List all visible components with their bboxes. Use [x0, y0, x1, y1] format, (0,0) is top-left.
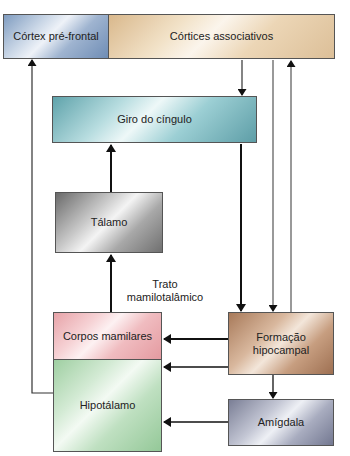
node-label: Corpos mamilares	[63, 330, 152, 343]
node-giro-do-cingulo: Giro do cíngulo	[52, 96, 257, 143]
node-formacao-hipocampal: Formação hipocampal	[228, 312, 334, 375]
node-label: Córtices associativos	[170, 30, 273, 43]
node-label: Giro do cíngulo	[117, 113, 192, 126]
node-cortices-associativos: Córtices associativos	[108, 14, 335, 59]
node-label: Hipotálamo	[80, 399, 136, 412]
node-label: Amígdala	[258, 416, 304, 429]
edge-label-line1: Trato	[120, 278, 210, 291]
node-talamo: Tálamo	[55, 192, 163, 253]
edge-label-line2: mamilotalâmico	[120, 291, 210, 304]
node-amigdala: Amígdala	[228, 399, 334, 446]
node-hipotalamo: Hipotálamo	[53, 359, 162, 452]
node-label-line1: Formação	[256, 331, 306, 344]
edge-label-trato-mamilotalamico: Trato mamilotalâmico	[120, 278, 210, 304]
node-label: Córtex pré-frontal	[13, 30, 99, 43]
node-label-line2: hipocampal	[253, 344, 309, 357]
node-cortex-prefrontal: Córtex pré-frontal	[3, 14, 109, 59]
node-label: Tálamo	[91, 216, 128, 229]
node-corpos-mamilares: Corpos mamilares	[53, 312, 162, 360]
edge-hipotalamo-to-prefrontal	[32, 60, 53, 393]
